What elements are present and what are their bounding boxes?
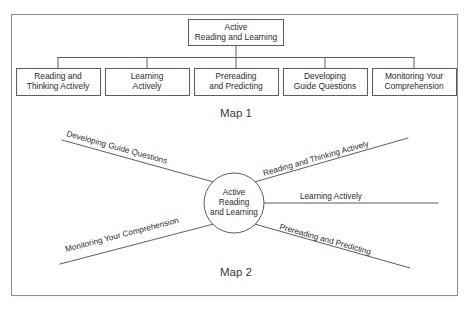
map1-child-4-line1: Developing [304,71,346,81]
map1-child-5-line1: Monitoring Your [385,71,443,81]
map2-hub-line2: Reading [219,198,250,207]
map1-child-3-line2: and Predicting [209,81,263,91]
map1-caption: Map 1 [220,107,252,119]
map2-hub-line1: Active [223,188,246,197]
concept-map-canvas: Active Reading and Learning Reading and … [0,0,471,313]
map2-caption: Map 2 [220,266,252,278]
concept-map-figure: Active Reading and Learning Reading and … [0,0,471,313]
map1-child-4-line2: Guide Questions [294,81,356,91]
map1-child-1-line2: Thinking Actively [27,81,90,91]
map1-child-3-line1: Prereading [216,71,257,81]
map1-child-5-line2: Comprehension [384,81,443,91]
map1-child-2-line2: Actively [133,81,163,91]
map1-child-1-line1: Reading and [34,71,82,81]
map1-root-line2: Reading and Learning [195,32,278,42]
map1-child-2-line1: Learning [131,71,164,81]
map2-spoke-label-learning-actively: Learning Actively [300,192,363,201]
figure-frame [12,15,458,296]
map2-hub-line3: and Learning [210,208,258,217]
map1-root-line1: Active [225,22,248,32]
